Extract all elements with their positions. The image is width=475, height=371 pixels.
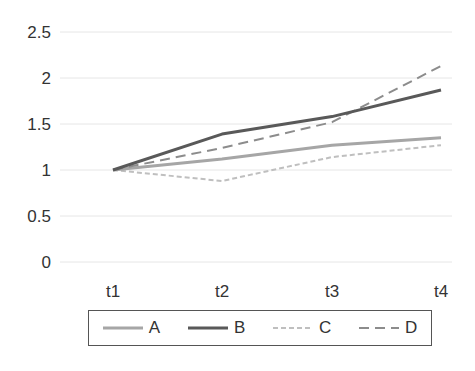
x-tick-label: t3 xyxy=(325,282,339,301)
y-tick-label: 2.5 xyxy=(27,23,51,42)
legend-swatch-a-icon xyxy=(103,325,143,331)
legend-label-a: A xyxy=(149,318,160,338)
legend: A B C D xyxy=(88,310,432,346)
x-tick-label: t1 xyxy=(106,282,120,301)
y-tick-label: 1 xyxy=(42,161,51,180)
series-line-b xyxy=(113,90,441,170)
y-axis-ticks: 00.511.522.5 xyxy=(27,23,51,272)
legend-swatch-b-icon xyxy=(188,325,228,331)
legend-item-a: A xyxy=(103,318,160,338)
x-axis-ticks: t1t2t3t4 xyxy=(106,282,448,301)
y-tick-label: 0 xyxy=(42,253,51,272)
series-line-c xyxy=(113,145,441,181)
legend-item-b: B xyxy=(188,318,245,338)
x-tick-label: t2 xyxy=(215,282,229,301)
legend-item-c: C xyxy=(273,318,331,338)
y-tick-label: 1.5 xyxy=(27,115,51,134)
legend-label-c: C xyxy=(319,318,331,338)
legend-swatch-d-icon xyxy=(359,325,399,331)
legend-item-d: D xyxy=(359,318,417,338)
x-tick-label: t4 xyxy=(434,282,448,301)
legend-swatch-c-icon xyxy=(273,325,313,331)
legend-label-b: B xyxy=(234,318,245,338)
y-tick-label: 2 xyxy=(42,69,51,88)
gridlines xyxy=(60,32,452,262)
legend-label-d: D xyxy=(405,318,417,338)
y-tick-label: 0.5 xyxy=(27,207,51,226)
